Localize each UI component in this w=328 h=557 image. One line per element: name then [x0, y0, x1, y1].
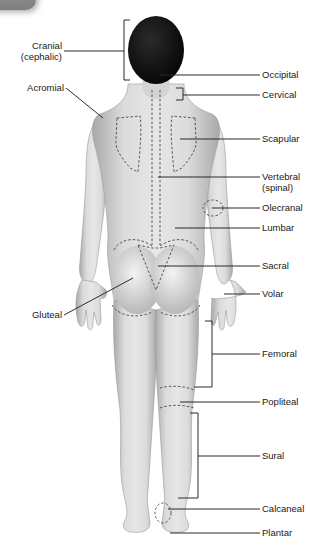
label-acromial: Acromial [27, 82, 64, 93]
label-cervical: Cervical [262, 89, 296, 100]
label-occipital: Occipital [262, 69, 298, 80]
label-plantar: Plantar [262, 527, 292, 538]
head-hair [128, 16, 184, 84]
label-femoral: Femoral [262, 348, 297, 359]
label-cranial-line1: Cranial [21, 40, 62, 51]
label-popliteal: Popliteal [262, 396, 298, 407]
label-gluteal: Gluteal [32, 309, 62, 320]
label-vertebral: Vertebral (spinal) [262, 171, 300, 193]
label-lumbar: Lumbar [262, 222, 294, 233]
label-vertebral-line1: Vertebral [262, 171, 300, 182]
label-sural: Sural [262, 450, 284, 461]
label-volar: Volar [262, 288, 284, 299]
legs [113, 300, 198, 532]
label-calcaneal: Calcaneal [262, 503, 304, 514]
label-scapular: Scapular [262, 133, 300, 144]
label-sacral: Sacral [262, 260, 289, 271]
label-olecranal: Olecranal [262, 202, 303, 213]
label-vertebral-line2: (spinal) [262, 182, 300, 193]
label-cranial: Cranial (cephalic) [21, 40, 62, 62]
label-cranial-line2: (cephalic) [21, 51, 62, 62]
